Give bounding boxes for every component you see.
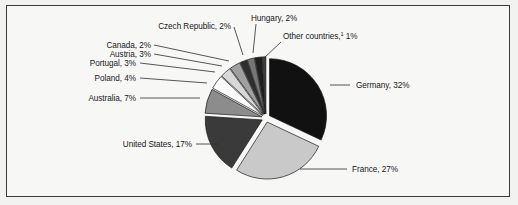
pie-chart: Germany, 32%France, 27%United States, 17… bbox=[0, 0, 518, 205]
leader-line-portugal bbox=[140, 63, 215, 72]
slice-label-canada: Canada, 2% bbox=[106, 41, 151, 50]
slice-label-france: France, 27% bbox=[352, 165, 398, 174]
pie-slices-group bbox=[205, 57, 326, 179]
leader-line-czech-republic bbox=[234, 27, 243, 55]
slice-label-portugal: Portugal, 3% bbox=[90, 59, 136, 68]
leader-line-other-countries bbox=[264, 42, 281, 58]
slice-label-australia: Australia, 7% bbox=[88, 94, 136, 103]
figure-page: Germany, 32%France, 27%United States, 17… bbox=[0, 0, 518, 205]
slice-label-czech-republic: Czech Republic, 2% bbox=[158, 22, 231, 31]
slice-label-poland: Poland, 4% bbox=[95, 74, 136, 83]
slice-label-united-states: United States, 17% bbox=[123, 140, 192, 149]
slice-label-germany: Germany, 32% bbox=[356, 81, 409, 90]
slice-label-austria: Austria, 3% bbox=[110, 50, 151, 59]
leader-line-poland bbox=[140, 78, 207, 83]
leader-line-hungary bbox=[253, 24, 256, 53]
slice-label-other-countries: Other countries,1 1% bbox=[283, 31, 357, 41]
leader-line-austria bbox=[154, 54, 222, 66]
leader-line-canada bbox=[154, 45, 229, 61]
slice-label-hungary: Hungary, 2% bbox=[251, 14, 297, 23]
